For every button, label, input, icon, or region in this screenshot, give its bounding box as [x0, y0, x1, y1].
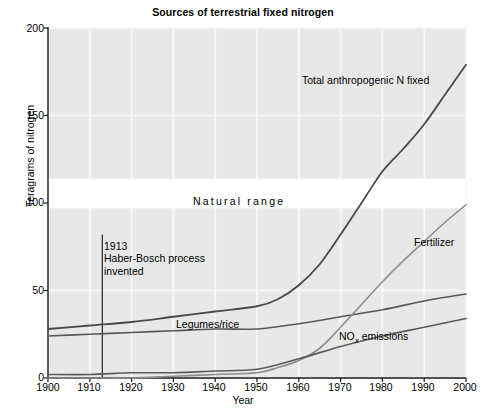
nox-prefix: NO	[339, 330, 355, 342]
series-label-total: Total anthropogenic N fixed	[302, 74, 429, 86]
nitrogen-sources-figure: Sources of terrestrial fixed nitrogen Te…	[0, 0, 486, 413]
natural-range-label: Natural range	[193, 195, 285, 207]
annotation-line-2: Haber-Bosch process	[104, 252, 205, 264]
series-label-nox: NOx emissions	[339, 330, 408, 345]
nox-suffix: emissions	[359, 330, 409, 342]
series-label-legumes: Legumes/rice	[176, 318, 239, 330]
annotation-line-1: 1913	[104, 240, 205, 252]
annotation-line-3: invented	[104, 265, 205, 277]
series-label-fertilizer: Fertilizer	[414, 236, 454, 248]
haber-bosch-annotation: 1913 Haber-Bosch process invented	[104, 240, 205, 277]
